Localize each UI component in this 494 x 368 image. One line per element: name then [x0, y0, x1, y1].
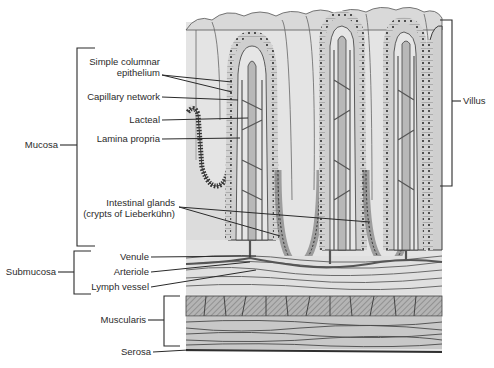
label-lymph-vessel: Lymph vessel	[70, 281, 149, 292]
label-capillary-network: Capillary network	[62, 91, 160, 102]
villus-2	[322, 14, 364, 250]
label-lacteal: Lacteal	[62, 114, 160, 125]
label-intestinal-glands-line1: Intestinal glands	[60, 197, 175, 208]
label-intestinal-glands-line2: (crypts of Lieberkühn)	[60, 208, 175, 219]
villus-3	[386, 20, 426, 250]
label-muscularis: Muscularis	[80, 314, 146, 325]
label-simple-columnar: Simple columnar epithelium	[62, 56, 160, 78]
label-venule: Venule	[70, 251, 149, 262]
villus-1	[228, 34, 276, 240]
label-serosa: Serosa	[90, 346, 151, 357]
label-villus: Villus	[463, 95, 486, 106]
label-submucosa: Submucosa	[0, 266, 56, 277]
label-lamina-propria: Lamina propria	[62, 133, 160, 144]
villus-right	[428, 26, 442, 250]
label-arteriole: Arteriole	[70, 266, 149, 277]
label-simple-columnar-line2: epithelium	[62, 67, 160, 78]
label-intestinal-glands: Intestinal glands (crypts of Lieberkühn)	[60, 197, 175, 219]
muscularis-bracket	[164, 296, 180, 346]
label-mucosa: Mucosa	[0, 139, 58, 150]
label-simple-columnar-line1: Simple columnar	[62, 56, 160, 67]
muscularis-layer	[186, 296, 442, 349]
